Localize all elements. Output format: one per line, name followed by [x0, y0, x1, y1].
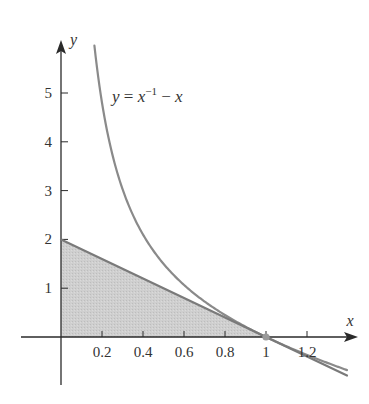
x-tick-label: 0.2: [93, 344, 112, 360]
y-axis-label: y: [68, 31, 78, 49]
chart: 0.20.40.60.811.212345xy y = x−1 − x: [0, 0, 369, 404]
intersection-point: [262, 333, 269, 340]
x-tick-label: 0.4: [134, 344, 153, 360]
y-tick-label: 3: [45, 183, 53, 199]
equation-label: y = x−1 − x: [110, 85, 183, 106]
x-tick-label: 0.8: [216, 344, 235, 360]
y-tick-label: 4: [45, 134, 53, 150]
x-tick-label: 1.2: [298, 344, 317, 360]
x-tick-label: 0.6: [175, 344, 194, 360]
y-tick-label: 1: [45, 280, 53, 296]
x-axis-label: x: [345, 312, 353, 329]
y-tick-label: 5: [45, 85, 53, 101]
equation-annotation: y = x−1 − x: [110, 85, 183, 106]
x-tick-label: 1: [262, 344, 270, 360]
y-tick-label: 2: [45, 231, 53, 247]
